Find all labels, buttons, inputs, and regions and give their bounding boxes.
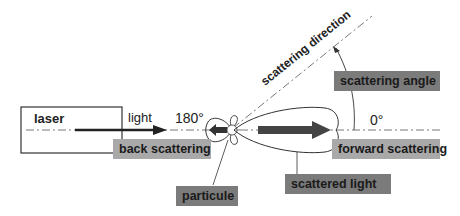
particle-icon	[227, 125, 237, 135]
angle-arc-arrowhead-icon	[333, 46, 340, 53]
light-label: light	[128, 110, 152, 125]
forward-arrow-body	[258, 126, 314, 134]
scattered-light-label: scattered light	[285, 174, 391, 194]
scattering-diagram: scattering direction	[0, 0, 460, 216]
particule-label: particule	[176, 186, 238, 206]
back-scattering-label: back scattering	[113, 139, 211, 159]
light-arrowhead-icon	[153, 125, 167, 135]
forward-scattering-label: forward scattering	[332, 139, 440, 159]
scattering-angle-label: scattering angle	[334, 71, 440, 91]
laser-label: laser	[34, 111, 64, 126]
back-arrow-body	[215, 127, 227, 133]
back-arrowhead-icon	[209, 124, 216, 136]
angle-0-label: 0°	[370, 112, 383, 128]
angle-180-label: 180°	[175, 110, 204, 126]
forward-arrowhead-icon	[312, 121, 331, 139]
particule-pointer	[213, 140, 228, 185]
